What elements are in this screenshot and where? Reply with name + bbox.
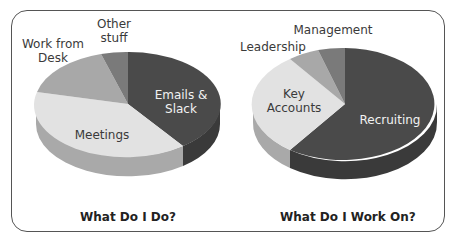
label-line: Desk (18, 51, 88, 65)
label-line: stuff (90, 31, 138, 45)
label-line: Work from (18, 37, 88, 51)
label-line: Other (90, 17, 138, 31)
label-line: Key (258, 87, 330, 101)
label-line: Slack (146, 102, 216, 116)
label-key-accounts: Key Accounts (258, 87, 330, 115)
label-management: Management (288, 23, 378, 37)
label-meetings: Meetings (62, 128, 142, 142)
label-other-stuff: Other stuff (90, 17, 138, 45)
right-chart-title: What Do I Work On? (280, 210, 410, 224)
label-emails-slack: Emails & Slack (146, 88, 216, 116)
label-work-from-desk: Work from Desk (18, 37, 88, 65)
label-leadership: Leadership (238, 40, 308, 54)
label-line: Accounts (258, 101, 330, 115)
label-recruiting: Recruiting (345, 113, 435, 127)
left-chart-title: What Do I Do? (68, 210, 188, 224)
label-line: Emails & (146, 88, 216, 102)
